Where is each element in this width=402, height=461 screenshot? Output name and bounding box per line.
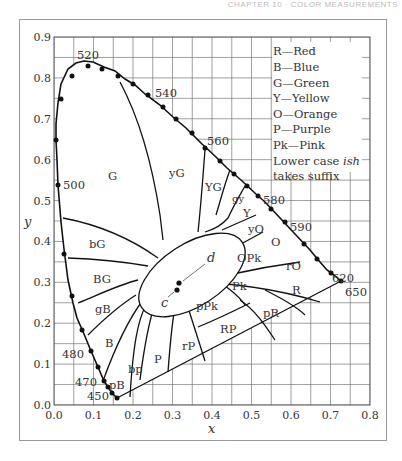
region-R: R <box>292 283 301 297</box>
wl-470: 470 <box>75 375 97 389</box>
region-RP: RP <box>220 322 237 336</box>
x-tick-0.1: 0.1 <box>85 409 103 422</box>
wl-500: 500 <box>63 178 85 192</box>
x-tick-0.6: 0.6 <box>282 409 300 422</box>
region-yO: yO <box>247 222 264 236</box>
region-gB: gB <box>95 302 111 316</box>
x-tick-0.3: 0.3 <box>164 409 182 422</box>
wl-620: 620 <box>332 271 354 285</box>
region-G: G <box>108 169 117 183</box>
region-rP: rP <box>182 339 195 353</box>
wl-590: 590 <box>290 220 312 234</box>
y-tick-0.0: 0.0 <box>34 399 52 412</box>
region-rO: rO <box>286 259 301 273</box>
x-axis-label: x <box>208 421 216 436</box>
y-tick-0.4: 0.4 <box>34 235 52 248</box>
legend-note-line1: Lower case ish <box>273 154 360 168</box>
legend-note-line2: takes suffix <box>273 169 340 183</box>
legend-pink: Pk—Pink <box>273 138 326 152</box>
region-pPk: pPk <box>196 299 219 313</box>
region-BG: BG <box>93 272 111 286</box>
legend-green: G—Green <box>273 76 330 90</box>
x-tick-0.7: 0.7 <box>322 409 340 422</box>
legend-yellow: Y—Yellow <box>272 91 330 105</box>
y-tick-0.5: 0.5 <box>34 195 52 208</box>
wl-650: 650 <box>345 285 367 299</box>
wl-540: 540 <box>155 86 177 100</box>
region-bp: bp <box>128 362 143 376</box>
point-c <box>174 287 179 292</box>
y-axis-label: y <box>23 214 32 229</box>
x-tick-0.5: 0.5 <box>243 409 261 422</box>
region-O: O <box>271 235 280 249</box>
region-gy: gy <box>232 193 244 204</box>
x-tick-0.2: 0.2 <box>124 409 142 422</box>
region-yG: yG <box>168 166 185 180</box>
region-OPk: OPk <box>237 251 262 265</box>
legend-ish: ish <box>343 154 360 168</box>
wl-520: 520 <box>77 48 99 62</box>
legend: R—Red B—Blue G—Green Y—Yellow O—Orange P… <box>272 42 362 183</box>
y-tick-labels: 0.00.10.20.30.40.50.60.70.80.9 <box>34 31 52 412</box>
region-YG: YG <box>204 180 222 194</box>
region-P: P <box>154 352 162 366</box>
region-bG: bG <box>89 237 106 251</box>
label-d: d <box>207 250 215 265</box>
x-tick-0.8: 0.8 <box>361 409 379 422</box>
chromaticity-diagram: d c G yG YG gy Y yO O rO R pR RP rP P bp… <box>0 0 402 461</box>
wl-560: 560 <box>207 134 229 148</box>
wl-480: 480 <box>62 347 84 361</box>
legend-purple: P—Purple <box>273 122 331 136</box>
wl-580: 580 <box>263 193 285 207</box>
point-d <box>176 280 181 285</box>
region-Y: Y <box>242 206 251 220</box>
region-pR: pR <box>263 306 279 320</box>
y-tick-0.8: 0.8 <box>34 72 52 85</box>
region-B: B <box>105 336 113 350</box>
label-c: c <box>161 295 169 310</box>
region-Pk: Pk <box>232 279 248 293</box>
y-tick-0.3: 0.3 <box>34 276 52 289</box>
wl-450: 450 <box>87 389 109 403</box>
y-tick-0.6: 0.6 <box>34 154 52 167</box>
y-tick-0.9: 0.9 <box>34 31 52 44</box>
legend-red: R—Red <box>273 44 317 58</box>
y-tick-0.7: 0.7 <box>34 113 52 126</box>
legend-blue: B—Blue <box>273 60 319 74</box>
region-pB: pB <box>109 378 125 392</box>
y-tick-0.2: 0.2 <box>34 317 52 330</box>
y-tick-0.1: 0.1 <box>34 358 52 371</box>
legend-orange: O—Orange <box>273 107 337 121</box>
